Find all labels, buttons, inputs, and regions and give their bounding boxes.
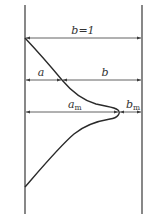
bm-label: bm bbox=[126, 98, 140, 112]
total-width-label: b=1 bbox=[71, 24, 94, 37]
b-label: b bbox=[101, 66, 108, 79]
profile-curve bbox=[25, 38, 119, 187]
am-label: am bbox=[68, 98, 82, 112]
a-label: a bbox=[38, 66, 45, 79]
velocity-profile-diagram: b=1 a b am bm bbox=[0, 0, 164, 221]
